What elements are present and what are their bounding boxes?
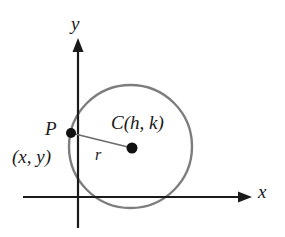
point-center-dot <box>127 143 138 154</box>
y-axis-label: y <box>71 14 79 33</box>
x-axis-arrowhead-icon <box>238 192 252 203</box>
circle-diagram: y x P (x, y) r C(h, k) <box>0 0 285 237</box>
radius-segment <box>71 133 132 148</box>
center-label: C(h, k) <box>111 113 164 132</box>
y-axis-arrowhead-icon <box>73 38 84 52</box>
point-p-coordinates-label: (x, y) <box>12 147 51 166</box>
point-p-dot <box>66 128 76 138</box>
radius-label: r <box>95 147 101 163</box>
x-axis-label: x <box>258 182 266 201</box>
point-p-label: P <box>45 119 57 138</box>
